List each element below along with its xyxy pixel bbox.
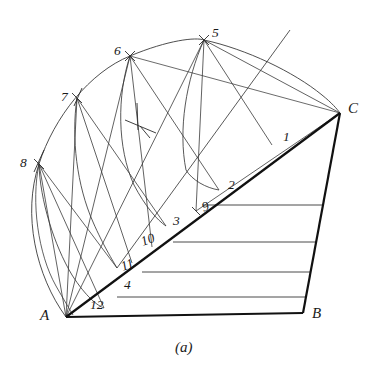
arc-6-to-AC: [121, 56, 166, 226]
arc-5-to-AC: [183, 40, 219, 190]
chord-5-1: [204, 40, 272, 145]
tick-construction-vertical: [137, 103, 138, 130]
division-label-3: 3: [173, 214, 180, 228]
division-label-7: 7: [61, 90, 68, 104]
division-label-5: 5: [212, 26, 219, 40]
chord-C-5: [204, 40, 340, 113]
tick-construction-arrow-2: [140, 126, 150, 138]
inner-arcs-group: [36, 40, 219, 315]
division-label-2: 2: [228, 178, 235, 192]
ray-A-8: [39, 164, 66, 317]
horizontal-lines-group: [117, 205, 323, 297]
division-label-1: 1: [283, 130, 290, 144]
figure-caption: (a): [175, 340, 193, 355]
figure-container: A B C 1 2 3 4 5 6 7 8 9 10 11 12 (a): [0, 0, 369, 372]
division-label-8: 8: [20, 156, 27, 170]
division-label-12: 12: [90, 298, 104, 312]
outer-arc-A-to-C: [32, 39, 340, 317]
arc-7-to-AC: [75, 98, 117, 268]
ray-A-5: [66, 40, 204, 317]
chord-8-4: [39, 164, 117, 268]
vertex-label-B: B: [312, 306, 321, 321]
outer-arc-group: [32, 39, 340, 317]
vertex-label-A: A: [40, 308, 49, 323]
side-AB: [66, 313, 303, 317]
diagonal-AC: [66, 113, 340, 317]
vertex-label-C: C: [348, 101, 358, 116]
chord-8-12: [39, 164, 104, 308]
chords-group: [39, 30, 340, 308]
division-label-6: 6: [114, 44, 121, 58]
chord-C-9: [196, 113, 340, 211]
outline-group: [66, 113, 340, 317]
chord-5-9: [196, 40, 204, 211]
chord-7-3: [77, 98, 166, 226]
division-label-4: 4: [124, 278, 131, 292]
side-BC: [303, 113, 340, 313]
tick-marks-group: [34, 35, 209, 215]
